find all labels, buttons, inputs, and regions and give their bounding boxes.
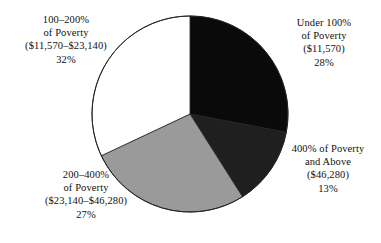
slice-label-line-2: of Poverty <box>22 181 150 194</box>
slice-label-line-2: of Poverty <box>2 26 130 39</box>
slice-label-400-of-poverty-and-above: 400% of Poverty and Above ($46,280) 13% <box>276 142 380 195</box>
slice-label-percent: 13% <box>276 182 380 195</box>
slice-label-percent: 27% <box>22 208 150 221</box>
slice-label-line-1: 100–200% <box>2 13 130 26</box>
slice-label-line-3: ($11,570) <box>268 42 380 55</box>
slice-label-under-100-of-poverty: Under 100% of Poverty ($11,570) 28% <box>268 16 380 69</box>
slice-label-line-1: 200–400% <box>22 168 150 181</box>
slice-label-line-1: 400% of Poverty <box>276 142 380 155</box>
slice-label-percent: 28% <box>268 56 380 69</box>
slice-label-line-1: Under 100% <box>268 16 380 29</box>
slice-label-line-3: ($11,570–$23,140) <box>2 39 130 52</box>
slice-label-line-2: and Above <box>276 155 380 168</box>
slice-label-200-400-of-poverty: 200–400% of Poverty ($23,140–$46,280) 27… <box>22 168 150 221</box>
slice-label-percent: 32% <box>2 53 130 66</box>
slice-label-line-3: ($23,140–$46,280) <box>22 194 150 207</box>
pie-chart-figure: Under 100% of Poverty ($11,570) 28% 100–… <box>0 0 381 243</box>
slice-label-line-2: of Poverty <box>268 29 380 42</box>
slice-label-line-3: ($46,280) <box>276 168 380 181</box>
slice-label-100-200-of-poverty: 100–200% of Poverty ($11,570–$23,140) 32… <box>2 13 130 66</box>
